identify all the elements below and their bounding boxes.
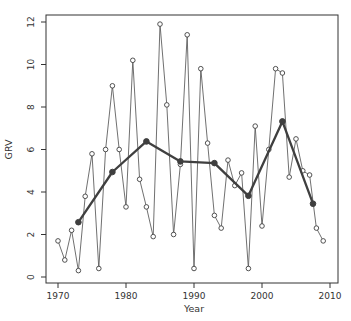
y-tick-label: 8 bbox=[26, 104, 36, 110]
annual-data-point bbox=[199, 66, 204, 71]
annual-data-point bbox=[205, 141, 210, 146]
annual-data-point bbox=[165, 103, 170, 108]
annual-data-point bbox=[69, 228, 74, 233]
mean-data-point bbox=[76, 219, 82, 225]
annual-data-point bbox=[110, 84, 115, 89]
annual-data-point bbox=[192, 266, 197, 271]
mean-data-point bbox=[212, 160, 218, 166]
annual-line bbox=[58, 24, 323, 271]
x-axis-title: Year bbox=[183, 303, 204, 314]
y-axis-title: GRV bbox=[3, 139, 14, 159]
annual-data-point bbox=[97, 266, 102, 271]
annual-data-point bbox=[124, 205, 129, 210]
annual-data-point bbox=[185, 33, 190, 38]
annual-data-point bbox=[219, 226, 224, 231]
y-tick-label: 2 bbox=[26, 232, 36, 238]
annual-data-point bbox=[144, 205, 149, 210]
mean-data-point bbox=[110, 169, 116, 175]
y-tick-label: 12 bbox=[26, 16, 36, 27]
chart-svg: 19701980199020002010 024681012 Year GRV bbox=[0, 0, 351, 321]
annual-data-point bbox=[212, 213, 217, 218]
y-tick-label: 10 bbox=[26, 59, 36, 71]
annual-data-point bbox=[226, 158, 231, 163]
x-tick-label: 2010 bbox=[319, 291, 342, 301]
mean-data-point bbox=[178, 159, 184, 165]
grv-time-series-chart: 19701980199020002010 024681012 Year GRV bbox=[0, 0, 351, 321]
annual-data-point bbox=[117, 147, 122, 152]
x-tick-label: 1980 bbox=[115, 291, 138, 301]
annual-data-point bbox=[321, 239, 326, 244]
annual-data-point bbox=[260, 224, 265, 229]
annual-data-point bbox=[171, 232, 176, 237]
annual-data-point bbox=[273, 66, 278, 71]
y-tick-label: 4 bbox=[26, 189, 36, 195]
annual-data-point bbox=[294, 137, 299, 142]
y-tick-label: 6 bbox=[26, 146, 36, 152]
annual-data-point bbox=[307, 173, 312, 178]
annual-data-point bbox=[151, 234, 156, 239]
x-tick-label: 1970 bbox=[47, 291, 70, 301]
y-axis: 024681012 bbox=[26, 16, 46, 280]
annual-data-point bbox=[314, 226, 319, 231]
annual-data-point bbox=[287, 175, 292, 180]
annual-series bbox=[56, 22, 326, 273]
mean-data-point bbox=[280, 119, 286, 125]
mean-data-point bbox=[144, 139, 150, 145]
x-tick-label: 2000 bbox=[251, 291, 274, 301]
annual-data-point bbox=[158, 22, 163, 27]
annual-data-point bbox=[90, 152, 95, 157]
annual-data-point bbox=[131, 58, 136, 63]
annual-data-point bbox=[63, 258, 68, 263]
annual-data-point bbox=[83, 194, 88, 199]
annual-data-point bbox=[280, 71, 285, 76]
mean-data-point bbox=[310, 201, 316, 207]
annual-data-point bbox=[246, 266, 251, 271]
y-tick-label: 0 bbox=[26, 274, 36, 280]
annual-data-point bbox=[253, 124, 258, 129]
annual-data-point bbox=[76, 268, 81, 273]
annual-data-point bbox=[103, 147, 108, 152]
annual-data-point bbox=[137, 177, 142, 182]
x-axis: 19701980199020002010 bbox=[47, 283, 342, 301]
annual-data-point bbox=[239, 171, 244, 176]
mean-data-point bbox=[246, 193, 252, 199]
x-tick-label: 1990 bbox=[183, 291, 206, 301]
annual-data-point bbox=[56, 239, 61, 244]
